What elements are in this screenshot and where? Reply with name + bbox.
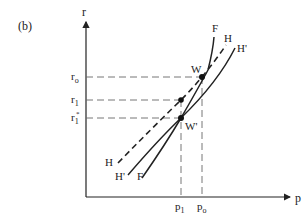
point-W-prime bbox=[178, 115, 184, 121]
panel-label: (b) bbox=[18, 19, 32, 33]
svg-text:p1: p1 bbox=[175, 200, 185, 215]
y-tick-r1-star: r1 * bbox=[71, 110, 80, 126]
curve-F-top-label: F bbox=[212, 22, 218, 34]
svg-text:po: po bbox=[197, 200, 207, 215]
curve-H-prime-top-label: H' bbox=[237, 42, 247, 54]
curve-F-bottom-label: F bbox=[137, 170, 143, 182]
svg-text:r1: r1 bbox=[71, 93, 79, 108]
y-tick-r1: r1 bbox=[71, 93, 79, 108]
x-tick-p1: p1 bbox=[175, 200, 185, 215]
curve-H-top-label: H bbox=[224, 32, 232, 44]
x-tick-p0: po bbox=[197, 200, 207, 215]
svg-text:*: * bbox=[76, 110, 80, 118]
point-W-prime-label: W' bbox=[185, 120, 197, 132]
point-W-label: W bbox=[191, 63, 202, 75]
curve-H-bottom-label: H bbox=[105, 156, 113, 168]
svg-text:ro: ro bbox=[71, 70, 79, 85]
y-tick-r0: ro bbox=[71, 70, 79, 85]
y-axis-label: r bbox=[82, 5, 86, 19]
economic-diagram: (b) r p F H H' H H' F W W' ro r1 r1 * p1 bbox=[0, 0, 305, 218]
curve-H-prime-bottom-label: H' bbox=[115, 170, 125, 182]
curve-H-prime bbox=[128, 48, 235, 175]
x-axis-label: p bbox=[295, 191, 301, 205]
curve-F bbox=[142, 37, 214, 178]
guide-lines bbox=[86, 77, 202, 197]
point-r1 bbox=[178, 97, 184, 103]
